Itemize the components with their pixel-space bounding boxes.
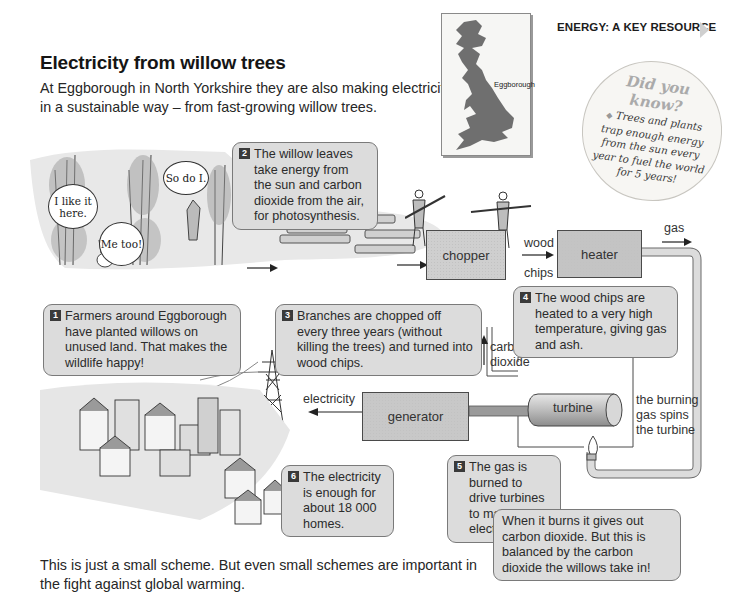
electricity-label: electricity xyxy=(303,392,355,407)
step-number-badge: 1 xyxy=(50,310,61,321)
label-line: the burning xyxy=(636,393,699,407)
step-3-bubble: 3 Branches are chopped off every three y… xyxy=(275,304,482,376)
wood-chips-label: wood chips xyxy=(524,236,554,281)
step-6-bubble: 6 The electricity is enough for about 18… xyxy=(281,465,394,537)
label-line: wood xyxy=(524,236,554,250)
gas-label: gas xyxy=(664,221,684,236)
gas-arrow-icon xyxy=(662,238,692,246)
step-text: The electricity is enough for about 18 0… xyxy=(303,470,381,531)
step-1-bubble: 1 Farmers around Eggborough have planted… xyxy=(43,304,241,376)
step-text: The willow leaves take energy from the s… xyxy=(254,147,364,223)
step-number-badge: 2 xyxy=(239,148,250,159)
step-number-badge: 4 xyxy=(520,292,531,303)
burning-gas-label: the burning gas spins the turbine xyxy=(636,393,699,438)
label-line: the turbine xyxy=(636,423,695,437)
step-number-badge: 3 xyxy=(282,310,293,321)
closing-paragraph: This is just a small scheme. But even sm… xyxy=(40,556,480,593)
label-line: chips xyxy=(524,266,553,280)
step-5-note-bubble: When it burns it gives out carbon dioxid… xyxy=(493,509,681,581)
step-number-badge: 5 xyxy=(454,461,465,472)
turbine-label: turbine xyxy=(553,400,593,415)
step-4-bubble: 4 The wood chips are heated to a very hi… xyxy=(513,286,678,358)
step-text: The wood chips are heated to a very high… xyxy=(535,291,667,352)
town-illustration xyxy=(20,370,320,540)
step-2-bubble: 2 The willow leaves take energy from the… xyxy=(232,142,378,230)
step-text: Farmers around Eggborough have planted w… xyxy=(65,309,227,370)
step-text: Branches are chopped off every three yea… xyxy=(297,309,473,370)
step-number-badge: 6 xyxy=(288,471,299,482)
label-line: gas spins xyxy=(636,408,689,422)
burner-flame-icon xyxy=(587,436,597,460)
